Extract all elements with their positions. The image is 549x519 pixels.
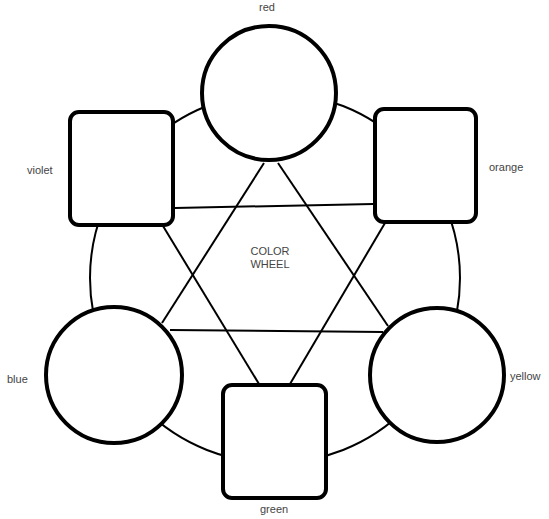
- label-green: green: [260, 503, 288, 515]
- center-title: COLOR WHEEL: [240, 245, 300, 271]
- center-title-line1: COLOR: [240, 245, 300, 258]
- triangle-edge-red-blue: [162, 163, 264, 323]
- node-orange[interactable]: [375, 109, 476, 222]
- node-yellow[interactable]: [370, 308, 504, 442]
- node-red[interactable]: [202, 26, 336, 160]
- center-title-line2: WHEEL: [240, 258, 300, 271]
- label-violet: violet: [27, 164, 53, 176]
- node-blue[interactable]: [46, 307, 182, 443]
- node-green[interactable]: [223, 385, 326, 498]
- label-red: red: [259, 1, 275, 13]
- label-blue: blue: [7, 373, 28, 385]
- label-orange: orange: [489, 161, 523, 173]
- triangle-edge-violet-orange: [175, 204, 373, 208]
- node-violet[interactable]: [70, 112, 173, 225]
- label-yellow: yellow: [510, 370, 541, 382]
- triangle-edge-blue-yellow: [170, 330, 383, 332]
